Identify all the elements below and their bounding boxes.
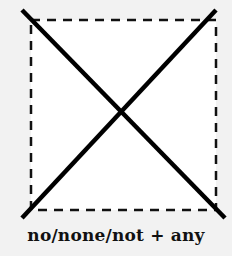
crossed-square-diagram xyxy=(0,0,232,228)
diagram-caption: no/none/not + any xyxy=(0,225,232,245)
